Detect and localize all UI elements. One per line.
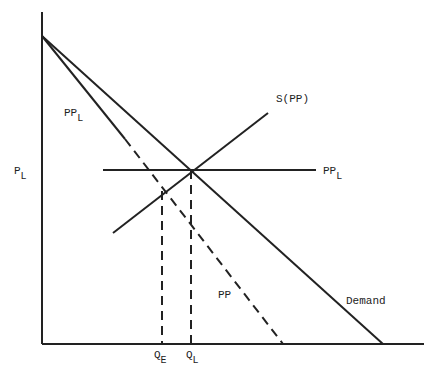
ql-label-sub: L bbox=[193, 355, 199, 366]
qe-label-main: Q bbox=[154, 349, 161, 361]
supply-label-text: S(PP) bbox=[276, 93, 309, 105]
supply-label: S(PP) bbox=[276, 94, 309, 105]
pp-curve-solid bbox=[42, 36, 125, 139]
price-axis-label-main: P bbox=[14, 165, 21, 177]
ppl-left-label-sub: L bbox=[77, 113, 83, 124]
pp-label: PP bbox=[218, 290, 231, 301]
demand-label: Demand bbox=[346, 296, 386, 307]
qe-label: QE bbox=[154, 350, 167, 361]
price-axis-label: PL bbox=[14, 166, 27, 177]
ql-label: QL bbox=[186, 350, 199, 361]
ppl-left-label: PPL bbox=[64, 108, 83, 119]
ql-label-main: Q bbox=[186, 349, 193, 361]
demand-curve bbox=[42, 36, 383, 344]
price-axis-label-sub: L bbox=[21, 171, 27, 182]
demand-label-text: Demand bbox=[346, 295, 386, 307]
ppl-right-label-main: PP bbox=[323, 165, 336, 177]
qe-label-sub: E bbox=[161, 355, 167, 366]
pp-label-text: PP bbox=[218, 289, 231, 301]
ppl-right-label: PPL bbox=[323, 166, 342, 177]
ppl-left-label-main: PP bbox=[64, 107, 77, 119]
economics-diagram bbox=[0, 0, 436, 377]
ppl-right-label-sub: L bbox=[336, 171, 342, 182]
